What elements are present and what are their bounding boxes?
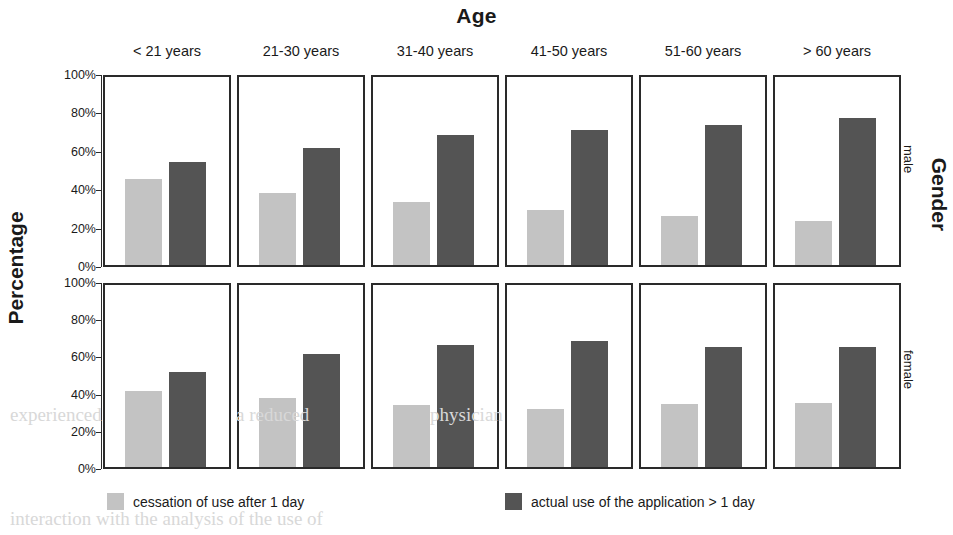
row-label-female: female — [901, 350, 916, 389]
col-label-4: 51-60 years — [639, 43, 767, 59]
y-tick-0 — [96, 469, 101, 470]
plot-area — [105, 77, 229, 265]
chart-right-title-label: Gender — [927, 158, 951, 232]
legend-label-0: cessation of use after 1 day — [133, 494, 304, 510]
y-tick-label-20: 20% — [71, 222, 96, 236]
bar-female-4-series2[interactable] — [571, 341, 608, 467]
bar-male-4-series2[interactable] — [571, 130, 608, 265]
panel-female-1 — [103, 283, 231, 469]
bar-female-5-series1[interactable] — [661, 404, 698, 467]
plot-area — [641, 285, 765, 467]
plot-area — [641, 77, 765, 265]
bar-male-5-series1[interactable] — [661, 216, 698, 265]
y-tick-80 — [96, 320, 101, 321]
chart-top-title: Age — [0, 4, 953, 28]
y-tick-label-40: 40% — [71, 183, 96, 197]
y-tick-label-80: 80% — [71, 313, 96, 327]
chart-y-axis-title: Percentage — [4, 211, 28, 324]
panel-female-3 — [371, 283, 499, 469]
panel-male-5 — [639, 75, 767, 267]
bar-female-3-series1[interactable] — [393, 405, 430, 467]
panel-female-4 — [505, 283, 633, 469]
bar-male-3-series1[interactable] — [393, 202, 430, 265]
y-tick-60 — [96, 357, 101, 358]
plot-area — [775, 77, 899, 265]
panel-male-2 — [237, 75, 365, 267]
scan-artifact-3: interaction with the analysis of the use… — [10, 508, 323, 530]
y-axis-line — [101, 283, 102, 469]
panel-male-1 — [103, 75, 231, 267]
bar-male-6-series1[interactable] — [795, 221, 832, 265]
plot-area — [373, 77, 497, 265]
col-label-1: 21-30 years — [237, 43, 365, 59]
y-tick-40 — [96, 190, 101, 191]
scan-artifact-0: experienced — [10, 404, 102, 426]
plot-area — [105, 285, 229, 467]
y-tick-80 — [96, 113, 101, 114]
panel-male-6 — [773, 75, 901, 267]
legend-item-0[interactable]: cessation of use after 1 day — [107, 493, 304, 510]
panel-female-2 — [237, 283, 365, 469]
bar-male-5-series2[interactable] — [705, 125, 742, 265]
bar-female-1-series2[interactable] — [169, 372, 206, 467]
y-tick-label-20: 20% — [71, 425, 96, 439]
y-tick-label-40: 40% — [71, 388, 96, 402]
y-tick-label-0: 0% — [78, 462, 96, 476]
col-label-2: 31-40 years — [371, 43, 499, 59]
bar-female-2-series2[interactable] — [303, 354, 340, 467]
col-label-3: 41-50 years — [505, 43, 633, 59]
bar-female-3-series2[interactable] — [437, 345, 474, 467]
bar-female-6-series2[interactable] — [839, 347, 876, 467]
panel-female-6 — [773, 283, 901, 469]
bar-female-2-series1[interactable] — [259, 398, 296, 467]
y-tick-label-60: 60% — [71, 350, 96, 364]
bar-male-4-series1[interactable] — [527, 210, 564, 265]
chart-right-title: Gender — [927, 158, 951, 232]
bar-female-5-series2[interactable] — [705, 347, 742, 467]
legend-swatch-dark-icon — [505, 493, 522, 510]
plot-area — [373, 285, 497, 467]
panel-male-4 — [505, 75, 633, 267]
plot-area — [239, 285, 363, 467]
y-tick-100 — [96, 75, 101, 76]
bar-female-6-series1[interactable] — [795, 403, 832, 467]
bar-male-1-series2[interactable] — [169, 162, 206, 265]
plot-area — [507, 285, 631, 467]
y-tick-label-60: 60% — [71, 145, 96, 159]
col-label-0: < 21 years — [103, 43, 231, 59]
y-tick-label-80: 80% — [71, 106, 96, 120]
col-label-5: > 60 years — [773, 43, 901, 59]
legend-item-1[interactable]: actual use of the application > 1 day — [505, 493, 755, 510]
plot-area — [507, 77, 631, 265]
y-tick-100 — [96, 283, 101, 284]
bar-male-1-series1[interactable] — [125, 179, 162, 265]
y-axis-line — [101, 75, 102, 267]
plot-area — [775, 285, 899, 467]
legend-swatch-light-icon — [107, 493, 124, 510]
bar-male-6-series2[interactable] — [839, 118, 876, 265]
y-tick-0 — [96, 267, 101, 268]
y-tick-20 — [96, 432, 101, 433]
chart-figure: Age Percentage Gender < 21 years 21-30 y… — [0, 0, 953, 535]
y-tick-40 — [96, 395, 101, 396]
y-tick-60 — [96, 152, 101, 153]
y-tick-20 — [96, 229, 101, 230]
bar-male-2-series1[interactable] — [259, 193, 296, 265]
y-tick-label-100: 100% — [64, 68, 96, 82]
bar-female-4-series1[interactable] — [527, 409, 564, 467]
bar-female-1-series1[interactable] — [125, 391, 162, 467]
y-tick-label-100: 100% — [64, 276, 96, 290]
plot-area — [239, 77, 363, 265]
bar-male-3-series2[interactable] — [437, 135, 474, 265]
panel-female-5 — [639, 283, 767, 469]
y-tick-label-0: 0% — [78, 260, 96, 274]
row-label-male: male — [901, 145, 916, 173]
legend-label-1: actual use of the application > 1 day — [531, 494, 755, 510]
panel-male-3 — [371, 75, 499, 267]
bar-male-2-series2[interactable] — [303, 148, 340, 266]
